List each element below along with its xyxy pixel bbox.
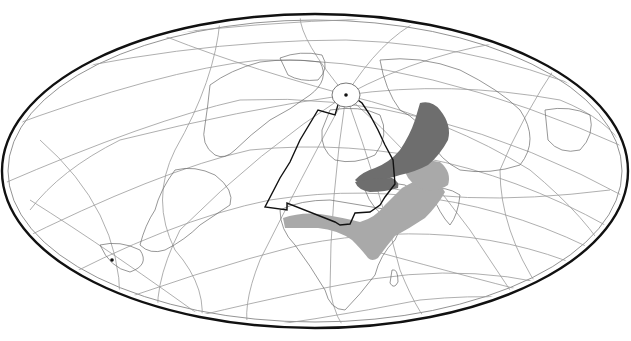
map-inner-border <box>8 20 622 322</box>
north-pole-point <box>344 93 348 97</box>
south-point <box>110 258 114 262</box>
map-canvas <box>0 0 631 341</box>
graticule-layer <box>0 16 631 335</box>
zone-outline <box>265 98 395 225</box>
map-figure <box>0 0 631 341</box>
